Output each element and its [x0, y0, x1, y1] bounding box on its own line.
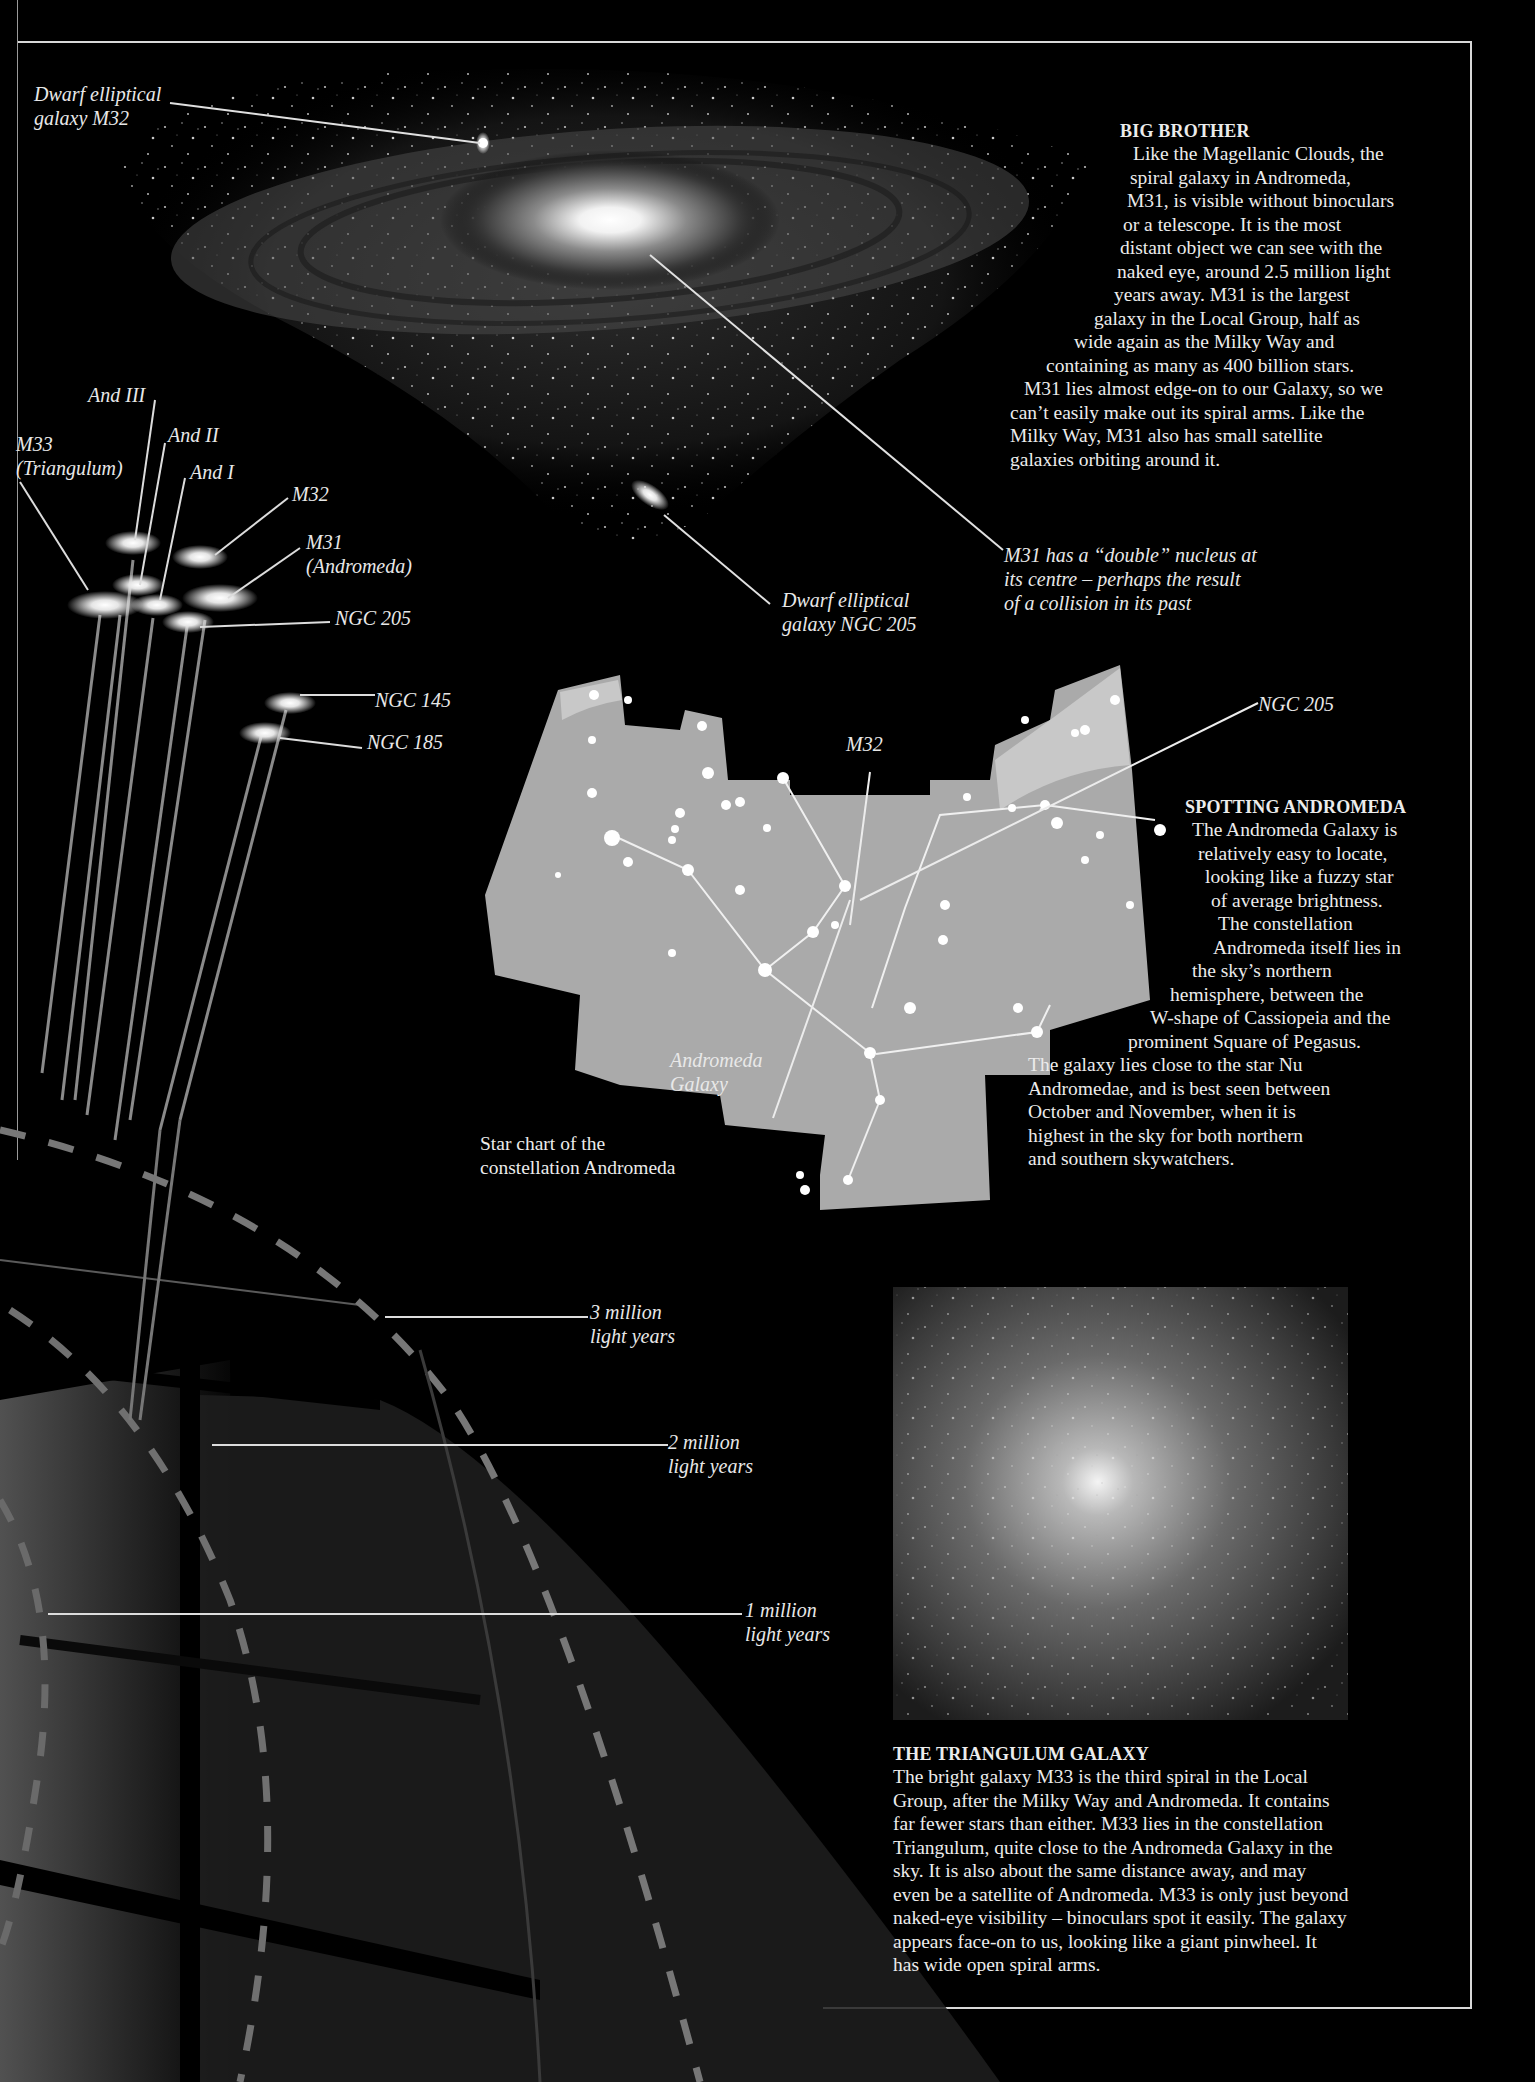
frame-top — [18, 41, 1471, 43]
distance-1-million: 1 million light years — [745, 1598, 830, 1646]
label-ngc205: NGC 205 — [335, 606, 411, 630]
distance-floor — [0, 1130, 1000, 2082]
callout-ngc205-photo: Dwarf elliptical galaxy NGC 205 — [782, 588, 916, 636]
chart-label-ngc205: NGC 205 — [1258, 692, 1334, 716]
callout-double-nucleus: M31 has a “double” nucleus at its centre… — [1004, 543, 1257, 615]
label-ngc145: NGC 145 — [375, 688, 451, 712]
label-m33: M33 (Triangulum) — [16, 432, 123, 480]
triangulum-section: THE TRIANGULUM GALAXY The bright galaxy … — [893, 1743, 1348, 1977]
label-m31: M31 (Andromeda) — [306, 530, 412, 578]
big-brother-section: BIG BROTHER Like the Magellanic Clouds, … — [0, 120, 1450, 471]
chart-label-m32: M32 — [846, 732, 883, 756]
label-m32: M32 — [292, 482, 329, 506]
distance-3-million: 3 million light years — [590, 1300, 675, 1348]
label-and-ii: And II — [168, 423, 219, 447]
label-ngc185: NGC 185 — [367, 730, 443, 754]
label-and-iii: And III — [88, 383, 145, 407]
big-brother-heading: BIG BROTHER — [1120, 120, 1450, 142]
spotting-andromeda-heading: SPOTTING ANDROMEDA — [1185, 796, 1450, 818]
frame-right — [1470, 41, 1472, 2009]
triangulum-heading: THE TRIANGULUM GALAXY — [893, 1743, 1348, 1765]
spotting-andromeda-section: SPOTTING ANDROMEDA The Andromeda Galaxy … — [0, 796, 1450, 1171]
label-and-i: And I — [190, 460, 234, 484]
distance-2-million: 2 million light years — [668, 1430, 753, 1478]
